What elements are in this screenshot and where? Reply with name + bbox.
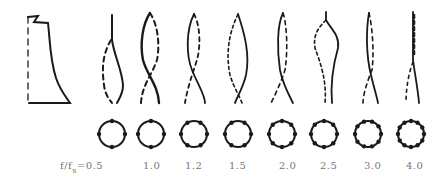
ratio-label-6: 3.0 [364,160,381,171]
mode-circle-1.0 [136,119,166,149]
mode-circle-4.0 [396,119,426,149]
mode-circle-1.2 [179,121,209,148]
mode-shape-1.5 [228,14,247,103]
ratio-label-4: 2.0 [279,160,296,171]
ratio-label-1: 1.0 [143,160,160,171]
circumferential-mode-circles [97,119,426,149]
mode-shape-1.2 [185,14,205,103]
meridional-mode-shapes [103,12,419,103]
tower-profile [28,16,70,103]
mode-shape-1.0 [141,13,159,103]
ratio-label-5: 2.5 [320,160,337,171]
mode-circle-1.5 [223,121,253,148]
mode-shape-2.5 [315,12,339,103]
mode-shape-4.0 [406,12,419,103]
mode-circle-3.0 [353,119,383,148]
mode-shape-2.0 [271,13,293,103]
ratio-label-2: 1.2 [185,160,202,171]
mode-circle-0.5 [97,119,127,149]
mode-shape-0.5 [103,15,123,103]
ratio-label-3: 1.5 [229,160,246,171]
ratio-label-7: 4.0 [406,160,423,171]
mode-circle-2.0 [267,119,297,149]
mode-circle-2.5 [309,119,339,149]
ratio-label-0: f/fs=0.5 [60,160,103,171]
mode-shape-3.0 [363,13,378,103]
